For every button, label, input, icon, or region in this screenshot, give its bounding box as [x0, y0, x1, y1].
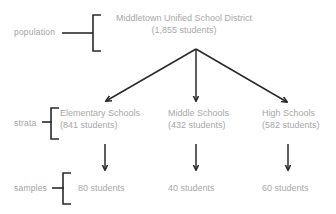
stratum-node-elementary: Elementary Schools (841 students)	[60, 108, 140, 131]
sample-node-middle: 40 students	[168, 183, 215, 195]
population-count: (1,855 students)	[106, 25, 262, 37]
row-label-samples: samples	[14, 183, 47, 193]
stratum-count: (432 students)	[168, 120, 229, 132]
sample-node-high: 60 students	[262, 183, 309, 195]
stratum-name: Elementary Schools	[60, 108, 140, 118]
stratum-count: (582 students)	[262, 120, 320, 132]
samples-bracket	[63, 173, 71, 204]
arrow-population-to-elementary	[106, 49, 196, 101]
population-node: Middletown Unified School District (1,85…	[106, 13, 262, 36]
population-bracket	[93, 15, 101, 51]
stratum-node-high: High Schools (582 students)	[262, 108, 320, 131]
stratum-count: (841 students)	[60, 120, 140, 132]
stratum-node-middle: Middle Schools (432 students)	[168, 108, 229, 131]
stratum-name: Middle Schools	[168, 108, 229, 118]
strata-bracket	[51, 108, 59, 139]
stratum-name: High Schools	[262, 108, 315, 118]
stratified-sampling-diagram: population strata samples Middletown Uni…	[0, 0, 336, 214]
row-label-strata: strata	[14, 118, 36, 128]
sample-node-elementary: 80 students	[78, 183, 125, 195]
arrow-population-to-high	[196, 49, 287, 102]
row-label-population: population	[14, 27, 55, 37]
population-name: Middletown Unified School District	[106, 13, 262, 25]
